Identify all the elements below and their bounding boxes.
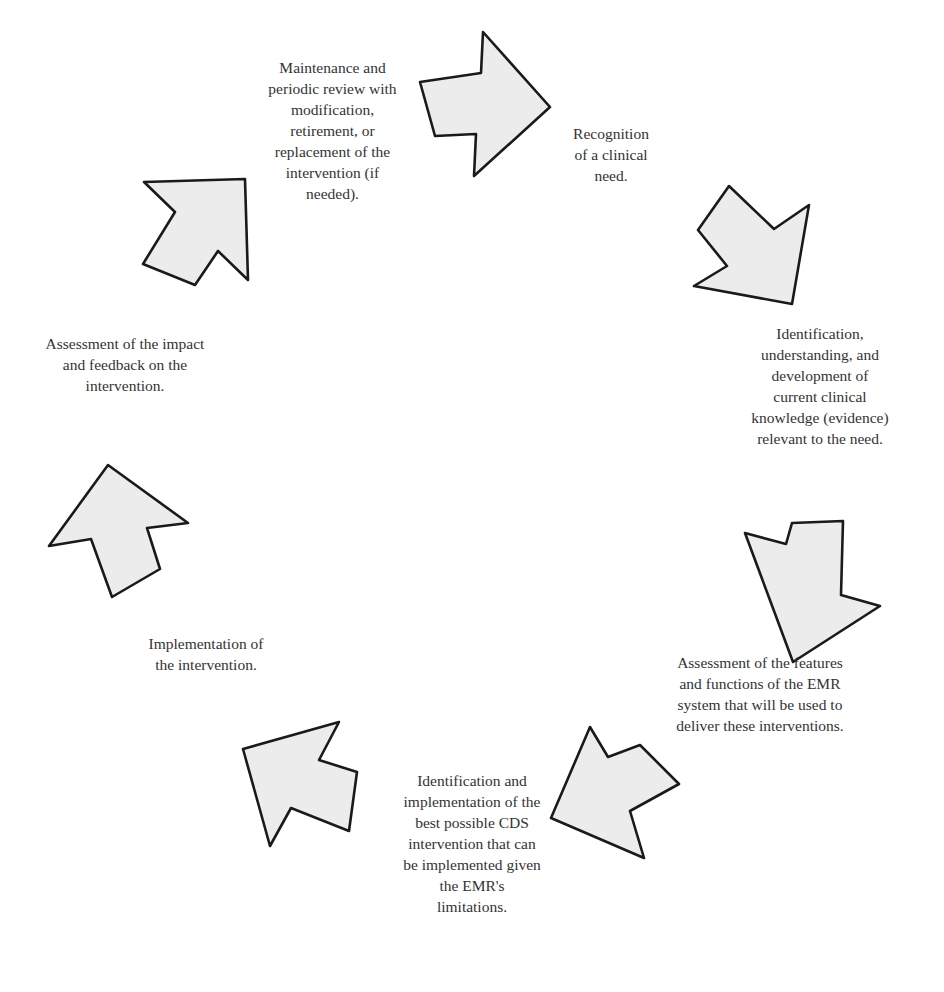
arrow-up-left-icon	[243, 722, 357, 846]
step-1-recognition: Recognition of a clinical need.	[556, 123, 666, 186]
arrow-up-icon	[49, 465, 188, 597]
step-6-impact-assessment: Assessment of the impact and feedback on…	[10, 333, 240, 396]
step-7-maintenance: Maintenance and periodic review with mod…	[245, 57, 420, 204]
arrow-right-icon	[420, 32, 550, 176]
arrow-up-right-icon	[143, 179, 248, 285]
step-3-emr-assessment: Assessment of the features and functions…	[640, 652, 880, 736]
step-5-implementation: Implementation of the intervention.	[106, 633, 306, 675]
arrow-down-icon	[745, 521, 880, 662]
arrow-down-right-icon	[694, 186, 809, 304]
step-2-knowledge: Identification, understanding, and devel…	[720, 323, 920, 449]
step-4-cds-intervention: Identification and implementation of the…	[372, 770, 572, 917]
